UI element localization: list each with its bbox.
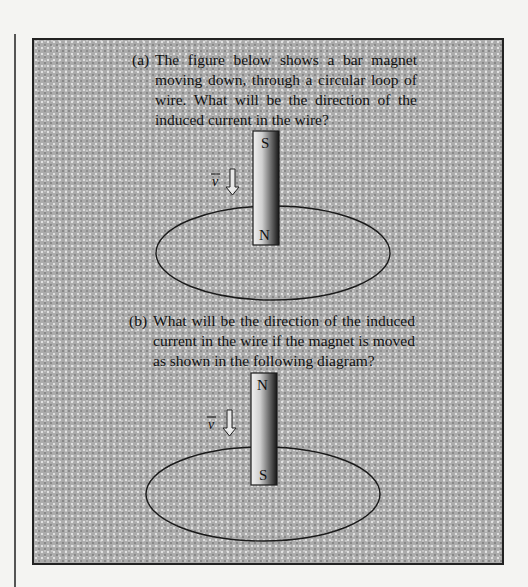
question-a-label: (a) [132, 50, 149, 70]
bar-magnet-a: S N [253, 131, 279, 245]
question-b-label: (b) [129, 311, 147, 331]
problem-box: (a) The figure below shows a bar magnet … [32, 38, 504, 565]
figure-b-magnet-loop: N S v [34, 368, 502, 548]
margin-rule [14, 34, 16, 587]
velocity-label-a: v [212, 174, 219, 189]
bar-magnet-b: N S [251, 373, 277, 485]
question-a-text: The figure below shows a bar magnet movi… [155, 50, 417, 130]
wire-loop-front [146, 494, 380, 541]
figure-a-magnet-loop: S N v [34, 126, 502, 306]
magnet-b-top-pole: N [257, 377, 268, 393]
magnet-a-top-pole: S [261, 135, 269, 151]
magnet-b-bottom-pole: S [259, 467, 267, 483]
textbook-page: (a) The figure below shows a bar magnet … [0, 0, 528, 587]
figure-b-drawing: N S v [34, 368, 502, 548]
velocity-arrow-down-icon [223, 410, 236, 436]
wire-loop-front [156, 253, 390, 300]
question-b-text: What will be the direction of the induce… [153, 311, 415, 371]
figure-a-drawing: S N v [34, 126, 502, 306]
velocity-arrow-down-icon [226, 169, 239, 195]
magnet-a-bottom-pole: N [259, 227, 270, 243]
velocity-label-b: v [208, 417, 215, 432]
